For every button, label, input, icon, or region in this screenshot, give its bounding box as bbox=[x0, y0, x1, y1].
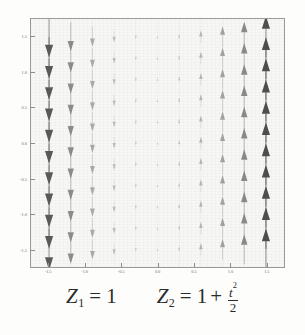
field-arrow bbox=[157, 121, 159, 124]
caption-right-variable: Z bbox=[157, 284, 169, 309]
arrow-head bbox=[241, 149, 247, 160]
arrow-head bbox=[241, 64, 247, 75]
fraction-denominator: 2 bbox=[228, 300, 239, 315]
field-arrow bbox=[90, 90, 95, 110]
arrow-head bbox=[262, 122, 270, 135]
x-axis-tick-label: 1.0 bbox=[228, 269, 233, 274]
field-arrow bbox=[135, 183, 137, 188]
arrow-head bbox=[262, 37, 270, 50]
arrow-head bbox=[199, 30, 202, 36]
field-arrow bbox=[45, 228, 53, 267]
arrow-head bbox=[220, 133, 225, 141]
y-axis-tickmark bbox=[30, 214, 35, 215]
arrow-head bbox=[113, 207, 116, 213]
caption-right-subscript: 2 bbox=[169, 296, 175, 311]
arrow-head bbox=[90, 209, 95, 217]
field-arrow bbox=[135, 98, 137, 103]
caption-right-plus: + bbox=[210, 284, 222, 309]
arrow-head bbox=[262, 19, 270, 29]
field-arrow bbox=[113, 222, 116, 234]
field-arrow bbox=[157, 163, 159, 166]
caption-left-expression: Z1 = 1 bbox=[66, 284, 117, 309]
field-arrow bbox=[199, 115, 202, 127]
field-arrow bbox=[199, 158, 202, 170]
arrow-head bbox=[90, 166, 95, 174]
arrow-head bbox=[90, 251, 95, 259]
arrow-head bbox=[135, 206, 137, 209]
arrow-head bbox=[262, 143, 270, 156]
arrow-head bbox=[220, 90, 225, 98]
field-arrow bbox=[157, 142, 159, 145]
y-axis-tick-label: 1.5 bbox=[22, 33, 28, 38]
field-arrow bbox=[135, 247, 137, 252]
field-arrow bbox=[220, 175, 225, 196]
field-arrow bbox=[178, 34, 180, 40]
field-arrow bbox=[199, 179, 202, 191]
arrow-head bbox=[135, 227, 137, 230]
arrow-head bbox=[241, 107, 247, 118]
field-arrow bbox=[199, 201, 202, 213]
arrow-head bbox=[241, 192, 247, 203]
caption-right-one: 1 bbox=[197, 284, 208, 309]
field-arrow bbox=[199, 222, 202, 234]
field-arrow bbox=[157, 206, 159, 209]
arrow-head bbox=[157, 227, 159, 230]
field-arrow bbox=[90, 69, 95, 89]
field-arrow bbox=[113, 201, 116, 213]
field-arrow bbox=[262, 228, 270, 267]
field-arrow bbox=[157, 248, 159, 251]
field-arrow bbox=[135, 226, 137, 231]
field-arrow bbox=[113, 52, 116, 64]
arrow-head bbox=[135, 100, 137, 103]
arrow-head bbox=[178, 140, 180, 144]
arrow-head bbox=[199, 115, 202, 121]
y-axis-tick-label: -1.5 bbox=[20, 248, 27, 253]
arrow-head bbox=[113, 100, 116, 106]
arrow-head bbox=[262, 58, 270, 71]
arrow-head bbox=[157, 121, 159, 124]
field-arrow bbox=[90, 133, 95, 153]
arrow-head bbox=[199, 243, 202, 249]
arrow-head bbox=[113, 185, 116, 191]
arrow-head bbox=[157, 142, 159, 145]
arrow-head bbox=[135, 185, 137, 188]
caption-left-subscript: 1 bbox=[78, 296, 84, 311]
field-arrow bbox=[220, 69, 225, 90]
caption-right-expression: Z2 = 1 + t2 2 bbox=[157, 284, 239, 320]
arrow-head bbox=[90, 124, 95, 132]
y-axis-tickmark bbox=[30, 250, 35, 251]
arrow-head bbox=[220, 48, 225, 56]
y-axis-tickmark bbox=[30, 179, 35, 180]
arrow-head bbox=[157, 99, 159, 102]
caption-left-variable: Z bbox=[66, 284, 78, 309]
y-axis-tick-label: 1.0 bbox=[22, 69, 28, 74]
field-arrow bbox=[113, 116, 116, 128]
arrow-head bbox=[113, 122, 116, 128]
arrow-head bbox=[262, 186, 270, 199]
arrow-head bbox=[157, 78, 159, 81]
x-axis-tick-label: 0.0 bbox=[155, 269, 160, 274]
arrow-head bbox=[157, 163, 159, 166]
field-arrow bbox=[199, 137, 202, 149]
fraction-numerator: t2 bbox=[227, 285, 239, 300]
arrow-head bbox=[90, 145, 95, 153]
arrow-head bbox=[90, 102, 95, 110]
y-axis-tick-label: 0.5 bbox=[22, 105, 28, 110]
arrow-head bbox=[262, 228, 270, 241]
arrow-head bbox=[199, 94, 202, 100]
arrow-head bbox=[157, 206, 159, 209]
arrow-head bbox=[135, 78, 137, 81]
x-axis-tick-label: -1.5 bbox=[45, 269, 52, 274]
field-arrow bbox=[178, 161, 180, 167]
arrow-head bbox=[113, 143, 116, 149]
arrow-head bbox=[178, 183, 180, 187]
arrow-head bbox=[241, 43, 247, 54]
field-arrow bbox=[220, 90, 225, 111]
field-arrow bbox=[220, 26, 225, 47]
arrow-head bbox=[157, 36, 159, 39]
arrow-head bbox=[241, 171, 247, 182]
y-axis-tickmark bbox=[30, 143, 35, 144]
arrow-head bbox=[90, 60, 95, 68]
y-axis-tick-label: 0.0 bbox=[22, 141, 28, 146]
arrow-head bbox=[135, 248, 137, 251]
